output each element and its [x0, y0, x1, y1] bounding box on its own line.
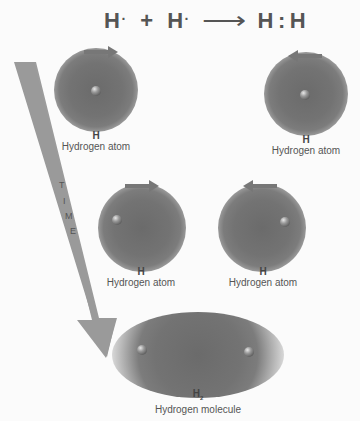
proton-nucleus-right [244, 347, 254, 357]
atom-symbol: H [81, 266, 201, 277]
motion-arrow-right-icon [84, 46, 118, 58]
time-letter-e: E [70, 226, 76, 236]
time-letter-m: M [65, 211, 73, 221]
proton-nucleus-left [137, 345, 147, 355]
atom-name: Hydrogen atom [272, 145, 340, 156]
atom-name: Hydrogen atom [62, 141, 130, 152]
proton-nucleus [112, 215, 122, 225]
proton-nucleus [91, 86, 101, 96]
hydrogen-atom-electron-cloud [98, 184, 186, 272]
molecule-symbol: H [193, 388, 200, 399]
atom-label: H Hydrogen atom [81, 266, 201, 288]
molecule-subscript: 2 [200, 395, 203, 401]
motion-arrow-right-icon [125, 180, 159, 192]
motion-arrow-left-icon [288, 50, 322, 62]
molecule-name: Hydrogen molecule [155, 404, 241, 415]
molecule-label: H2 Hydrogen molecule [138, 388, 258, 415]
atom-label: H Hydrogen atom [246, 134, 360, 156]
atom-name: Hydrogen atom [229, 277, 297, 288]
time-letter-t: T [59, 180, 65, 190]
atom-symbol: H [203, 266, 323, 277]
atom-name: Hydrogen atom [107, 277, 175, 288]
hydrogen-atom-electron-cloud [218, 184, 306, 272]
atom-label: H Hydrogen atom [203, 266, 323, 288]
proton-nucleus [300, 90, 310, 100]
time-letter-i: I [63, 196, 66, 206]
atom-label: H Hydrogen atom [36, 130, 156, 152]
molecule-formula: H2 [138, 388, 258, 404]
proton-nucleus [280, 217, 290, 227]
atom-symbol: H [36, 130, 156, 141]
atom-symbol: H [246, 134, 360, 145]
motion-arrow-left-icon [243, 180, 277, 192]
hydrogen-molecule-electron-cloud [112, 312, 284, 398]
